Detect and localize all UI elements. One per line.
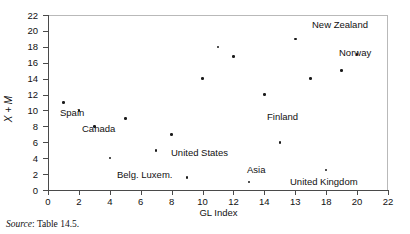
scatter-point [170, 133, 173, 136]
y-tick-mark [43, 31, 48, 32]
plot-frame [48, 15, 388, 190]
scatter-point [232, 55, 235, 58]
x-tick-label: 8 [160, 197, 184, 207]
x-tick-mark [326, 191, 327, 195]
x-tick-label: 10 [191, 197, 215, 207]
scatter-point [263, 93, 266, 96]
point-label: United States [171, 148, 228, 158]
y-tick-label: 22 [8, 11, 38, 21]
scatter-point [340, 69, 343, 72]
x-tick-mark [172, 191, 173, 195]
source-note: Source: Table 14.5. [6, 219, 79, 229]
point-label: Norway [339, 48, 371, 58]
y-tick-label: 18 [8, 42, 38, 52]
x-axis-title-text: GL Index [199, 207, 237, 218]
y-tick-label: 6 [8, 138, 38, 148]
x-tick-mark [203, 191, 204, 195]
scatter-point [309, 77, 312, 80]
x-tick-mark [110, 191, 111, 195]
scatter-point [186, 176, 189, 179]
y-tick-mark [43, 174, 48, 175]
x-axis-line [48, 190, 389, 191]
point-label: Canada [82, 124, 115, 134]
scatter-point [62, 101, 65, 104]
scatter-point [279, 141, 282, 144]
y-tick-label: 16 [8, 58, 38, 68]
x-tick-label: 13 [283, 197, 307, 207]
point-label: Spain [60, 108, 84, 118]
y-tick-mark [43, 110, 48, 111]
source-note-value: Table 14.5. [37, 219, 79, 229]
x-tick-label: 0 [36, 197, 60, 207]
x-tick-label: 6 [129, 197, 153, 207]
y-tick-label: 0 [8, 186, 38, 196]
point-label: United Kingdom [290, 177, 358, 187]
x-tick-mark [264, 191, 265, 195]
x-tick-label: 2 [67, 197, 91, 207]
x-tick-mark [79, 191, 80, 195]
scatter-point [124, 117, 127, 120]
x-tick-mark [48, 191, 49, 195]
x-tick-mark [388, 191, 389, 195]
point-label: Finland [267, 112, 298, 122]
scatter-chart-figure: 0246810121416182022 0246810121413182022 … [0, 0, 410, 234]
y-axis-line [48, 15, 49, 191]
x-tick-mark [141, 191, 142, 195]
x-tick-mark [295, 191, 296, 195]
scatter-point [294, 38, 297, 41]
source-note-label: Source [6, 219, 32, 229]
y-tick-mark [43, 15, 48, 16]
y-tick-label: 2 [8, 170, 38, 180]
x-tick-label: 14 [252, 197, 276, 207]
x-tick-label: 20 [345, 197, 369, 207]
x-tick-label: 22 [376, 197, 400, 207]
scatter-point [201, 77, 204, 80]
y-tick-mark [43, 126, 48, 127]
y-tick-mark [43, 63, 48, 64]
x-tick-mark [233, 191, 234, 195]
point-label: New Zealand [312, 20, 368, 30]
point-label: Belg. Luxem. [117, 170, 172, 180]
y-tick-mark [43, 142, 48, 143]
y-tick-mark [43, 158, 48, 159]
point-label: Asia [247, 165, 265, 175]
y-tick-label: 4 [8, 154, 38, 164]
y-tick-mark [43, 95, 48, 96]
x-tick-label: 4 [98, 197, 122, 207]
x-tick-label: 12 [221, 197, 245, 207]
y-axis-title-text: X + M [3, 96, 14, 122]
x-tick-label: 18 [314, 197, 338, 207]
y-axis-title: X + M [4, 81, 14, 137]
x-tick-mark [357, 191, 358, 195]
y-tick-label: 20 [8, 26, 38, 36]
y-tick-mark [43, 47, 48, 48]
y-tick-mark [43, 79, 48, 80]
x-axis-title: GL Index [48, 208, 389, 218]
